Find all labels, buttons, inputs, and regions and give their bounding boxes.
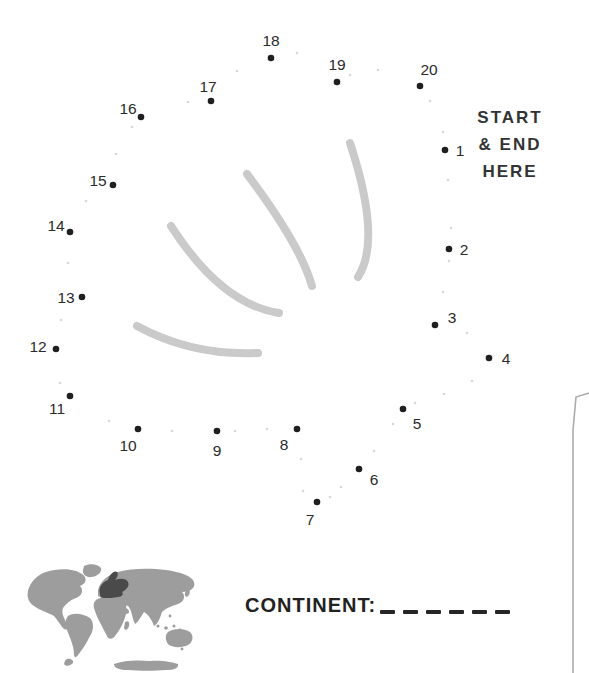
interior-line (247, 174, 312, 286)
faint-guide-dot (443, 393, 446, 396)
puzzle-dot (334, 79, 341, 86)
puzzle-dot (135, 426, 142, 433)
puzzle-dot (432, 322, 439, 329)
puzzle-dot (486, 355, 493, 362)
map-madagascar (124, 621, 129, 630)
dot-number-label: 5 (413, 415, 422, 432)
faint-guide-dot (392, 423, 395, 426)
puzzle-dot (314, 499, 321, 506)
answer-blank-dash (449, 610, 464, 614)
map-south-america (66, 614, 93, 657)
faint-guide-dot (414, 402, 417, 405)
faint-guide-dot (329, 496, 332, 499)
dot-number-label: 10 (119, 437, 137, 454)
puzzle-dot (442, 147, 449, 154)
start-end-line: & END (464, 131, 556, 158)
faint-guide-dot (115, 153, 118, 156)
dot-number-label: 8 (280, 436, 289, 453)
dot-number-label: 4 (502, 350, 511, 367)
faint-guide-dot (131, 126, 134, 129)
faint-guide-dot (236, 70, 239, 73)
puzzle-dot (356, 466, 363, 473)
dot-number-label: 18 (262, 32, 279, 49)
map-greenland (83, 564, 101, 577)
answer-blank-dash (403, 610, 418, 614)
map-tasmania (181, 648, 184, 651)
faint-guide-dot (59, 382, 62, 385)
faint-guide-dot (67, 262, 70, 265)
start-end-line: START (464, 104, 556, 131)
start-end-note: START & END HERE (464, 104, 556, 185)
puzzle-dot (400, 406, 407, 413)
faint-guide-dot (466, 332, 469, 335)
faint-guide-dot (471, 380, 474, 383)
world-map (20, 560, 200, 673)
faint-guide-dot (447, 179, 450, 182)
map-australia (166, 629, 193, 647)
answer-blank-dash (495, 610, 510, 614)
puzzle-dot (294, 426, 301, 433)
faint-guide-dot (187, 101, 190, 104)
faint-guide-dot (302, 490, 305, 493)
map-island (173, 625, 176, 628)
answer-blanks (380, 595, 518, 615)
puzzle-dot (53, 346, 60, 353)
puzzle-dot (67, 229, 74, 236)
dot-number-label: 11 (49, 400, 65, 417)
dot-number-label: 19 (328, 56, 345, 73)
interior-line (171, 226, 279, 313)
dot-number-label: 16 (119, 100, 136, 117)
start-end-line: HERE (464, 158, 556, 185)
puzzle-dot (110, 182, 117, 189)
faint-guide-dot (450, 227, 453, 230)
faint-guide-dot (85, 200, 88, 203)
map-island (156, 624, 159, 627)
continent-label: CONTINENT: (245, 594, 376, 617)
faint-guide-dot (60, 319, 63, 322)
puzzle-dot (214, 428, 221, 435)
puzzle-dot (208, 98, 215, 105)
faint-guide-dot (300, 458, 303, 461)
puzzle-dot (79, 294, 86, 301)
puzzle-dot (446, 246, 453, 253)
dot-number-label: 12 (29, 338, 46, 355)
puzzle-dot (417, 83, 424, 90)
faint-guide-dot (340, 486, 343, 489)
faint-guide-dot (442, 131, 445, 134)
worksheet-page: 1234567891011121314151617181920 START & … (0, 0, 589, 673)
faint-guide-dot (234, 430, 237, 433)
faint-guide-dot (296, 52, 299, 55)
interior-line (137, 326, 258, 353)
dot-number-label: 15 (89, 172, 106, 189)
puzzle-dot (268, 55, 275, 62)
answer-blank-dash (472, 610, 487, 614)
faint-guide-dot (108, 420, 111, 423)
answer-blank-dash (380, 610, 395, 614)
dot-number-label: 3 (448, 309, 457, 326)
dot-number-label: 6 (370, 471, 379, 488)
map-antarctica (114, 660, 178, 670)
faint-guide-dot (373, 450, 376, 453)
dot-number-label: 2 (460, 241, 469, 258)
dot-number-label: 9 (213, 442, 222, 459)
puzzle-dot (67, 393, 74, 400)
puzzle-dot (138, 114, 145, 121)
dot-number-label: 7 (306, 511, 315, 528)
map-tierra-del-fuego (64, 659, 73, 666)
faint-guide-dot (266, 428, 269, 431)
continent-answer-row: CONTINENT: (245, 592, 518, 618)
dot-number-label: 17 (199, 78, 216, 95)
dot-number-label: 20 (420, 61, 438, 78)
faint-guide-dot (442, 291, 445, 294)
faint-guide-dot (349, 74, 352, 77)
map-island (164, 626, 168, 630)
dot-number-label: 14 (47, 217, 65, 234)
interior-line (350, 143, 368, 277)
faint-guide-dot (429, 100, 432, 103)
answer-blank-dash (426, 610, 441, 614)
map-island (169, 615, 172, 618)
faint-guide-dot (171, 430, 174, 433)
dot-number-label: 13 (57, 289, 74, 306)
faint-guide-dot (377, 69, 380, 72)
faint-guide-dot (448, 260, 451, 263)
